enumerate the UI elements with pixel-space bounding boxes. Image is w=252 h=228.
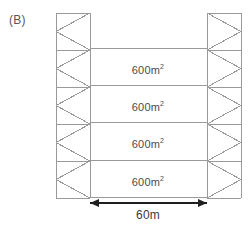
right-column-brace <box>207 161 241 180</box>
left-column-brace <box>56 124 90 143</box>
right-column-brace <box>207 180 241 199</box>
cell-area-exponent: 2 <box>160 137 164 144</box>
truss-diagram-svg <box>0 0 252 228</box>
right-column-brace <box>207 32 241 51</box>
right-column-brace <box>207 106 241 125</box>
cell-area-unit: m <box>151 101 160 113</box>
cell-area-unit: m <box>151 64 160 76</box>
left-column-brace <box>56 32 90 51</box>
cell-area-unit: m <box>151 176 160 188</box>
cell-area-value: 600 <box>132 138 151 150</box>
left-column-brace <box>56 69 90 88</box>
left-column-brace <box>56 161 90 180</box>
left-column-brace <box>56 87 90 106</box>
cell-area-label: 600m2 <box>132 64 164 76</box>
right-column-brace <box>207 69 241 88</box>
left-column-brace <box>56 13 90 32</box>
cell-area-exponent: 2 <box>160 175 164 182</box>
right-column-brace <box>207 13 241 32</box>
cell-area-exponent: 2 <box>160 63 164 70</box>
cell-area-label: 600m2 <box>132 101 164 113</box>
right-column-brace <box>207 87 241 106</box>
left-column-brace <box>56 180 90 199</box>
left-column-brace <box>56 106 90 125</box>
right-column-brace <box>207 124 241 143</box>
right-column-brace <box>207 143 241 162</box>
cell-area-value: 600 <box>132 64 151 76</box>
left-column-brace <box>56 50 90 69</box>
dimension-arrowhead-left <box>90 199 99 207</box>
cell-area-unit: m <box>151 138 160 150</box>
dimension-label: 60m <box>136 208 160 222</box>
cell-area-value: 600 <box>132 101 151 113</box>
cell-area-exponent: 2 <box>160 100 164 107</box>
figure-container: (B) 600m2600m2600m2600m2 60m <box>0 0 252 228</box>
cell-area-label: 600m2 <box>132 176 164 188</box>
dimension-arrow-group <box>90 199 207 207</box>
right-column-brace <box>207 50 241 69</box>
dimension-arrowhead-right <box>198 199 207 207</box>
cell-area-value: 600 <box>132 176 151 188</box>
cell-area-label: 600m2 <box>132 138 164 150</box>
left-column-brace <box>56 143 90 162</box>
